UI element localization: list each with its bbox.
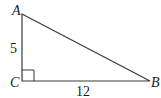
- triangle-diagram: A C B 5 12: [0, 0, 161, 98]
- side-label-ac: 5: [10, 41, 17, 56]
- vertex-label-c: C: [10, 75, 20, 90]
- vertex-label-a: A: [11, 3, 21, 18]
- vertex-label-b: B: [151, 75, 160, 90]
- side-label-cb: 12: [76, 84, 90, 98]
- triangle-abc: [22, 14, 150, 81]
- right-angle-marker: [22, 70, 34, 81]
